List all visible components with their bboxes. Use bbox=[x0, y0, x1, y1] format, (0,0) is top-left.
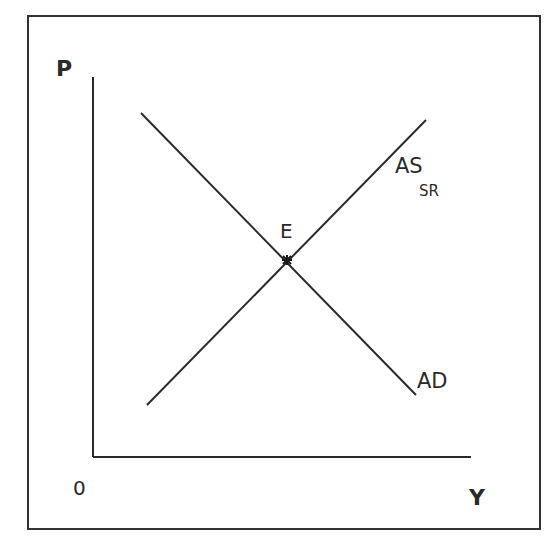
equilibrium-label: E bbox=[280, 219, 293, 243]
diagram-frame bbox=[28, 16, 540, 529]
equilibrium-marker-icon bbox=[282, 255, 292, 265]
y-axis-label: P bbox=[56, 56, 72, 81]
ad-curve bbox=[141, 113, 416, 395]
x-axis-label: Y bbox=[468, 485, 486, 510]
as-ad-diagram: P Y 0 E AS SR AD bbox=[0, 0, 558, 550]
as-curve-label: AS bbox=[395, 154, 423, 178]
origin-label: 0 bbox=[73, 476, 86, 500]
ad-curve-label: AD bbox=[417, 369, 448, 393]
as-curve-subscript: SR bbox=[419, 182, 439, 200]
